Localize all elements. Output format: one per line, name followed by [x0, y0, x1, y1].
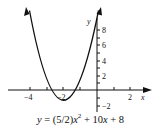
left-arrow-icon — [24, 7, 30, 16]
y-tick-label-8: 8 — [102, 26, 106, 35]
y-tick-label-neg2: −2 — [102, 102, 111, 111]
y-tick-label-4: 4 — [102, 57, 106, 66]
x-axis-label: x — [140, 93, 145, 102]
y-tick-label-2: 2 — [102, 72, 106, 81]
x-tick-label-2: 2 — [128, 93, 132, 102]
x-tick-label-neg4: −4 — [24, 93, 33, 102]
equation-caption: y = (5/2)x2 + 10x + 8 — [0, 112, 161, 125]
y-tick-label-6: 6 — [102, 41, 106, 50]
y-axis-label: y — [86, 17, 91, 26]
